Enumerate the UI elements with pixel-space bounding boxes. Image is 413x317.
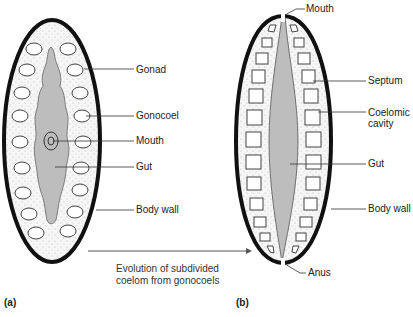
organism-a bbox=[4, 20, 134, 262]
label-body-wall-a: Body wall bbox=[136, 204, 179, 215]
label-mouth-a: Mouth bbox=[136, 135, 164, 146]
label-coelomic-cavity-line1: Coelomic bbox=[368, 107, 410, 118]
panel-tag-a: (a) bbox=[4, 297, 16, 308]
label-septum-b: Septum bbox=[368, 75, 402, 86]
evolution-caption-line1: Evolution of subdivided bbox=[116, 263, 219, 275]
label-gut-a: Gut bbox=[136, 161, 152, 172]
label-body-wall-b: Body wall bbox=[368, 203, 411, 214]
label-gonocoel-a: Gonocoel bbox=[136, 110, 179, 121]
evolution-arrow bbox=[88, 248, 252, 254]
panel-tag-b: (b) bbox=[236, 297, 249, 308]
evolution-caption-line2: coelom from gonocoels bbox=[116, 275, 219, 287]
organism-b bbox=[236, 9, 366, 273]
label-anus-b: Anus bbox=[308, 267, 331, 278]
label-gonad-a: Gonad bbox=[136, 64, 166, 75]
label-mouth-b: Mouth bbox=[306, 3, 334, 14]
label-coelomic-cavity-line2: cavity bbox=[368, 118, 394, 129]
label-gut-b: Gut bbox=[368, 158, 384, 169]
